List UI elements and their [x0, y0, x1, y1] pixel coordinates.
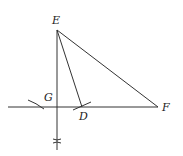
segment-ed: [57, 30, 82, 107]
arc-left: [28, 100, 44, 109]
label-d: D: [78, 110, 88, 123]
geometry-diagram: E F G D: [0, 0, 183, 156]
label-f: F: [161, 101, 170, 114]
label-g: G: [44, 91, 53, 104]
segment-ef: [57, 30, 158, 107]
label-e: E: [51, 14, 60, 27]
arc-at-D: [73, 102, 91, 110]
